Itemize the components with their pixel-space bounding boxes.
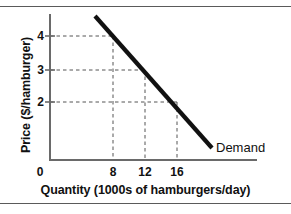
x-tick-label-8: 8 [101, 165, 125, 179]
demand-series-label: Demand [216, 140, 265, 155]
y-axis-title: Price ($/hamburger) [19, 25, 33, 165]
x-tick-label-12: 12 [133, 165, 157, 179]
x-tick-label-16: 16 [165, 165, 189, 179]
x-axis-title: Quantity (1000s of hamburgers/day) [0, 183, 291, 197]
demand-curve-chart: 4 3 2 0 8 12 16 Price ($/hamburger) Quan… [0, 0, 291, 214]
x-tick-label-0: 0 [28, 165, 52, 179]
